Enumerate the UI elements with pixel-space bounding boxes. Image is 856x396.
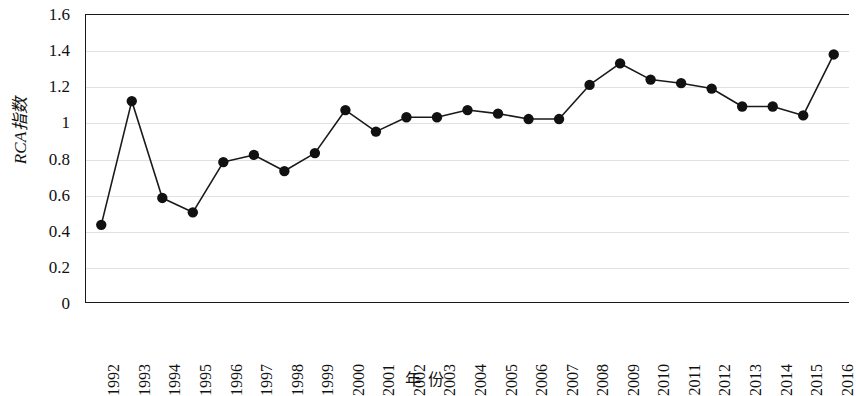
plot-area bbox=[85, 14, 849, 303]
data-point-marker bbox=[218, 157, 228, 167]
y-tick-label: 1.2 bbox=[49, 78, 70, 95]
data-point-marker bbox=[798, 110, 808, 120]
y-axis-tick-labels: 00.20.40.60.811.21.41.6 bbox=[0, 0, 78, 310]
data-point-marker bbox=[554, 114, 564, 124]
y-tick-label: 0 bbox=[62, 295, 71, 312]
data-point-marker bbox=[249, 150, 259, 160]
x-axis-tick-labels: 1992199319941995199619971998199920002001… bbox=[85, 306, 849, 366]
data-point-marker bbox=[127, 96, 137, 106]
data-point-marker bbox=[523, 114, 533, 124]
data-point-marker bbox=[340, 105, 350, 115]
series-line bbox=[101, 54, 833, 224]
y-tick-label: 1.4 bbox=[49, 42, 70, 59]
y-tick-label: 0.4 bbox=[49, 222, 70, 239]
data-point-marker bbox=[768, 101, 778, 111]
data-point-marker bbox=[310, 148, 320, 158]
data-point-marker bbox=[96, 220, 106, 230]
data-point-marker bbox=[432, 112, 442, 122]
data-point-marker bbox=[706, 83, 716, 93]
x-axis-title: 年 份 bbox=[0, 366, 850, 390]
data-series bbox=[86, 15, 849, 302]
y-tick-label: 0.6 bbox=[49, 186, 70, 203]
data-point-marker bbox=[157, 193, 167, 203]
data-point-marker bbox=[279, 166, 289, 176]
data-point-marker bbox=[401, 112, 411, 122]
data-point-marker bbox=[676, 78, 686, 88]
data-point-marker bbox=[615, 58, 625, 68]
y-tick-label: 0.2 bbox=[49, 258, 70, 275]
data-point-marker bbox=[737, 101, 747, 111]
data-point-marker bbox=[829, 49, 839, 59]
y-tick-label: 1 bbox=[62, 114, 71, 131]
data-point-marker bbox=[645, 74, 655, 84]
data-point-marker bbox=[371, 126, 381, 136]
data-point-marker bbox=[462, 105, 472, 115]
data-point-marker bbox=[584, 80, 594, 90]
data-point-marker bbox=[493, 108, 503, 118]
y-tick-label: 0.8 bbox=[49, 150, 70, 167]
data-point-marker bbox=[188, 207, 198, 217]
y-tick-label: 1.6 bbox=[49, 6, 70, 23]
